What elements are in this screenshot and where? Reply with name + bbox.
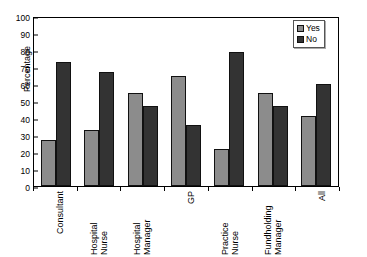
bar-no bbox=[143, 106, 158, 186]
bar-group bbox=[41, 18, 71, 186]
bar-no bbox=[186, 125, 201, 186]
y-tick-label: 20 bbox=[21, 150, 34, 159]
bar-no bbox=[99, 72, 114, 186]
y-tick-label: 100 bbox=[16, 14, 34, 23]
bar-yes bbox=[41, 140, 56, 186]
legend-label-yes: Yes bbox=[306, 23, 320, 34]
x-label-slot: Consultant bbox=[33, 191, 77, 257]
x-label-slot: HospitalNurse bbox=[77, 191, 121, 257]
x-label-slot: PracticeNurse bbox=[208, 191, 252, 257]
bar-no bbox=[229, 52, 244, 186]
y-tick-label: 90 bbox=[21, 31, 34, 40]
y-tick-label: 10 bbox=[21, 167, 34, 176]
y-tick-label: 70 bbox=[21, 65, 34, 74]
bar-no bbox=[316, 84, 331, 186]
y-tick-mark bbox=[34, 188, 38, 189]
bar-yes bbox=[128, 93, 143, 187]
y-tick-label: 80 bbox=[21, 48, 34, 57]
bar-no bbox=[273, 106, 288, 186]
y-tick-label: 60 bbox=[21, 82, 34, 91]
x-axis-label: HospitalNurse bbox=[89, 191, 109, 255]
bar-yes bbox=[258, 93, 273, 187]
legend-swatch-yes-icon bbox=[297, 25, 304, 32]
y-tick-label: 50 bbox=[21, 99, 34, 108]
x-label-slot: FundholdingManager bbox=[252, 191, 296, 257]
x-axis-label: FundholdingManager bbox=[263, 191, 283, 255]
bar-group bbox=[171, 18, 201, 186]
bar-yes bbox=[301, 116, 316, 186]
bar-chart: Percentage 0102030405060708090100 Consul… bbox=[0, 0, 367, 257]
bar-group bbox=[258, 18, 288, 186]
bar-group bbox=[84, 18, 114, 186]
bar-yes bbox=[84, 130, 99, 186]
x-axis-label: GP bbox=[186, 191, 196, 204]
legend-item-yes: Yes bbox=[297, 23, 320, 34]
y-tick-label: 40 bbox=[21, 116, 34, 125]
legend-swatch-no-icon bbox=[297, 36, 304, 43]
x-axis-label: Consultant bbox=[55, 191, 65, 234]
bar-group bbox=[214, 18, 244, 186]
x-label-slot: GP bbox=[164, 191, 208, 257]
x-tick-mark bbox=[339, 187, 340, 191]
x-label-slot: HospitalManager bbox=[120, 191, 164, 257]
legend-item-no: No bbox=[297, 34, 320, 45]
x-axis-labels: ConsultantHospitalNurseHospitalManagerGP… bbox=[33, 191, 339, 257]
legend-label-no: No bbox=[306, 34, 317, 45]
bar-yes bbox=[171, 76, 186, 187]
bar-group bbox=[128, 18, 158, 186]
y-tick-label: 30 bbox=[21, 133, 34, 142]
legend: Yes No bbox=[293, 20, 325, 48]
bar-yes bbox=[214, 149, 229, 186]
x-axis-label: PracticeNurse bbox=[220, 191, 240, 255]
bar-no bbox=[56, 62, 71, 186]
x-axis-label: HospitalManager bbox=[132, 191, 152, 255]
x-label-slot: All bbox=[295, 191, 339, 257]
x-axis-label: All bbox=[317, 191, 327, 201]
